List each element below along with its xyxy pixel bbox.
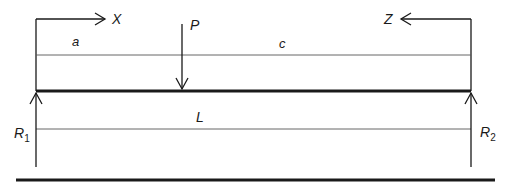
reaction-r1: R1 — [14, 93, 42, 167]
beam-diagram: X Z a c P L R1 R2 — [0, 0, 505, 185]
reaction-r2: R2 — [465, 93, 496, 167]
r2-label: R2 — [480, 124, 496, 143]
load-label: P — [190, 17, 200, 33]
r1-label: R1 — [14, 125, 30, 144]
x-axis-label: X — [111, 11, 122, 27]
z-axis-label: Z — [383, 11, 393, 27]
x-axis-indicator: X — [36, 11, 122, 91]
r2-label-subscript: 2 — [490, 132, 496, 143]
dimension-c-label: c — [279, 36, 286, 51]
dimension-L-label: L — [196, 109, 204, 125]
z-axis-indicator: Z — [383, 11, 471, 91]
r1-label-main: R — [14, 125, 24, 141]
dimension-a-label: a — [72, 34, 79, 49]
r2-label-main: R — [480, 124, 490, 140]
r1-label-subscript: 1 — [24, 133, 30, 144]
point-load: P — [176, 17, 200, 89]
